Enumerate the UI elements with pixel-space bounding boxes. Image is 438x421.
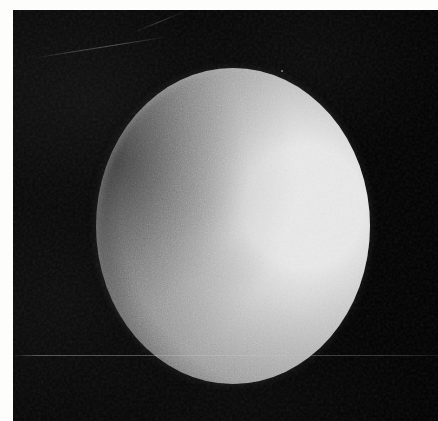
planetary-disk xyxy=(96,68,370,384)
sky-plate xyxy=(13,10,438,421)
film-margin-left xyxy=(0,0,13,421)
film-margin-top xyxy=(0,0,438,10)
photograph-frame xyxy=(0,0,438,421)
disk-terminator-shading xyxy=(96,68,370,384)
